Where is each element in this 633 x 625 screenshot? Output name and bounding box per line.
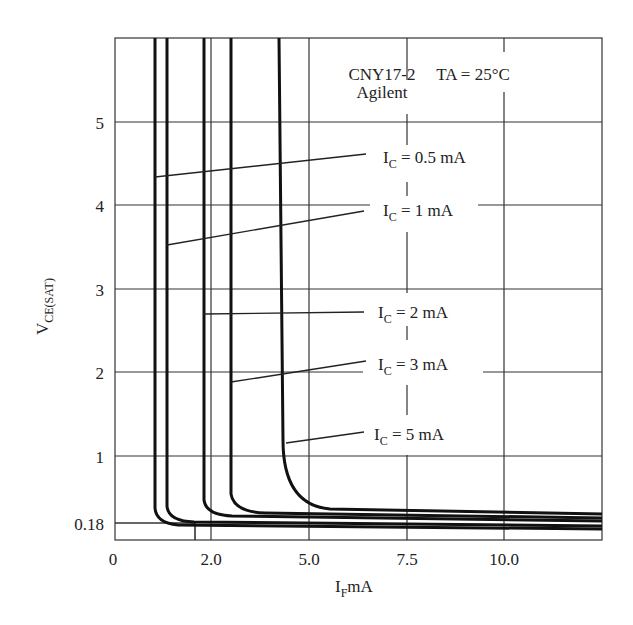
plot-grid (115, 38, 602, 540)
x-axis-label: IFmA (335, 577, 374, 600)
legend-ic-3ma: IC = 3 mA (378, 355, 449, 378)
legend-ic-0.5ma: IC = 0.5 mA (383, 148, 466, 171)
chart-figure: CNY17-2 Agilent TA = 25°C IC = 0.5 mA IC… (0, 0, 633, 625)
legend-ic-5ma: IC = 5 mA (374, 425, 445, 448)
curve-ic-2ma (204, 38, 602, 521)
curve-ic-0.5ma (155, 38, 602, 529)
legend-ic-1ma: IC = 1 mA (383, 201, 454, 224)
y-tick-5: 5 (96, 114, 105, 133)
x-tick-5.0: 5.0 (298, 550, 319, 569)
curve-ic-3ma (231, 38, 602, 518)
device-label: CNY17-2 (348, 65, 415, 84)
annotation-leaders (155, 154, 366, 443)
y-tick-1: 1 (96, 448, 105, 467)
x-tick-2.0: 2.0 (200, 550, 221, 569)
y-axis-label: VCE(SAT) (33, 278, 56, 335)
x-tick-7.5: 7.5 (396, 550, 417, 569)
x-tick-10.0: 10.0 (489, 550, 519, 569)
curves (155, 38, 602, 529)
y-tick-0.18: 0.18 (74, 515, 104, 534)
legend-ic-2ma: IC = 2 mA (378, 303, 449, 326)
x-tick-0: 0 (109, 550, 118, 569)
y-tick-3: 3 (96, 281, 105, 300)
maker-label: Agilent (357, 83, 408, 102)
y-tick-4: 4 (96, 197, 105, 216)
y-tick-2: 2 (96, 364, 105, 383)
temperature-label: TA = 25°C (436, 65, 510, 84)
